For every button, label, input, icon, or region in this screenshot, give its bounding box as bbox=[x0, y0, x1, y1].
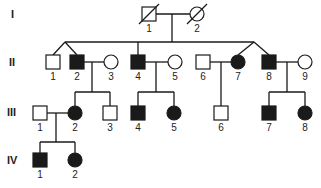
unaffected-female-circle bbox=[168, 55, 182, 69]
individual-number: 4 bbox=[135, 71, 141, 82]
individual-iii-5: 5 bbox=[167, 106, 181, 133]
individual-number: 7 bbox=[266, 122, 272, 133]
individual-number: 1 bbox=[50, 71, 56, 82]
individual-number: 2 bbox=[72, 122, 78, 133]
individual-number: 8 bbox=[302, 122, 308, 133]
individual-number: 1 bbox=[146, 23, 152, 34]
affected-female-circle bbox=[68, 106, 82, 120]
individual-number: 6 bbox=[218, 122, 224, 133]
individual-number: 3 bbox=[108, 71, 114, 82]
individual-number: 1 bbox=[37, 169, 43, 180]
unaffected-female-circle bbox=[298, 55, 312, 69]
individual-iv-2: 2 bbox=[68, 153, 82, 180]
individual-number: 3 bbox=[107, 122, 113, 133]
unaffected-male-square bbox=[46, 55, 60, 69]
individual-ii-9: 9 bbox=[298, 55, 312, 82]
affected-female-circle bbox=[298, 106, 312, 120]
individual-iii-1: 1 bbox=[33, 106, 47, 133]
individual-number: 5 bbox=[172, 71, 178, 82]
individual-number: 2 bbox=[72, 169, 78, 180]
individual-i-1: 1 bbox=[139, 4, 159, 34]
individual-ii-3: 3 bbox=[104, 55, 118, 82]
pedigree-chart: I II III IV bbox=[0, 0, 321, 188]
affected-male-square bbox=[131, 106, 145, 120]
individual-number: 5 bbox=[171, 122, 177, 133]
unaffected-male-square bbox=[33, 106, 47, 120]
individual-ii-8: 8 bbox=[262, 55, 276, 82]
affected-female-circle bbox=[231, 55, 245, 69]
pedigree-svg: I II III IV bbox=[0, 0, 321, 188]
individual-ii-1: 1 bbox=[46, 55, 60, 82]
affected-female-circle bbox=[68, 153, 82, 167]
affected-male-square bbox=[262, 55, 276, 69]
generation-label-2: II bbox=[9, 56, 15, 68]
individual-iii-8: 8 bbox=[298, 106, 312, 133]
unaffected-male-square bbox=[103, 106, 117, 120]
individual-iii-7: 7 bbox=[262, 106, 276, 133]
individual-number: 4 bbox=[135, 122, 141, 133]
unaffected-male-square bbox=[196, 55, 210, 69]
individual-i-2: 2 bbox=[187, 4, 207, 34]
affected-male-square bbox=[70, 55, 84, 69]
affected-male-square bbox=[262, 106, 276, 120]
individual-number: 1 bbox=[37, 122, 43, 133]
generation-label-1: I bbox=[11, 8, 14, 20]
individual-iii-6: 6 bbox=[214, 106, 228, 133]
individual-ii-6: 6 bbox=[196, 55, 210, 82]
individual-ii-7: 7 bbox=[231, 55, 245, 82]
individual-number: 8 bbox=[266, 71, 272, 82]
individual-number: 2 bbox=[194, 23, 200, 34]
individual-ii-2: 2 bbox=[70, 55, 84, 82]
individual-number: 9 bbox=[302, 71, 308, 82]
individual-ii-4: 4 bbox=[131, 55, 145, 82]
individual-iv-1: 1 bbox=[33, 153, 47, 180]
generation-label-3: III bbox=[7, 106, 16, 118]
individual-number: 2 bbox=[74, 71, 80, 82]
unaffected-female-circle bbox=[104, 55, 118, 69]
individual-iii-2: 2 bbox=[68, 106, 82, 133]
individual-ii-5: 5 bbox=[168, 55, 182, 82]
affected-female-circle bbox=[167, 106, 181, 120]
unaffected-male-square bbox=[214, 106, 228, 120]
individual-iii-4: 4 bbox=[131, 106, 145, 133]
individual-iii-3: 3 bbox=[103, 106, 117, 133]
individual-number: 6 bbox=[200, 71, 206, 82]
affected-male-square bbox=[33, 153, 47, 167]
individual-number: 7 bbox=[235, 71, 241, 82]
affected-male-square bbox=[131, 55, 145, 69]
generation-label-4: IV bbox=[7, 154, 18, 166]
